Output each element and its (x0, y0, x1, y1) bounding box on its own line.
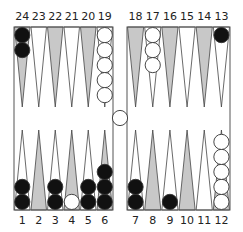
point-number-9: 9 (166, 214, 173, 227)
point-14[interactable] (196, 27, 212, 107)
point-number-16: 16 (163, 10, 177, 23)
point-number-17: 17 (146, 10, 160, 23)
point-number-19: 19 (98, 10, 112, 23)
checker-black-point-7[interactable] (128, 179, 143, 194)
checker-white-point-4[interactable] (64, 194, 79, 209)
checker-black-point-1[interactable] (15, 194, 30, 209)
point-number-5: 5 (85, 214, 92, 227)
point-number-24: 24 (15, 10, 29, 23)
checker-black-point-3[interactable] (48, 194, 63, 209)
point-number-20: 20 (81, 10, 95, 23)
bottom-point-numbers: 123456789101112 (19, 214, 229, 227)
point-number-12: 12 (214, 214, 228, 227)
checker-white-point-17[interactable] (145, 27, 160, 42)
point-number-8: 8 (149, 214, 156, 227)
checker-black-point-24[interactable] (15, 43, 30, 58)
checker-black-point-6[interactable] (97, 179, 112, 194)
checker-white-point-12[interactable] (214, 134, 229, 149)
point-number-1: 1 (19, 214, 26, 227)
checker-black-point-3[interactable] (48, 179, 63, 194)
checker-white-point-19[interactable] (97, 27, 112, 42)
checker-black-point-6[interactable] (97, 194, 112, 209)
checker-black-point-24[interactable] (15, 27, 30, 42)
point-11[interactable] (196, 130, 212, 210)
point-number-10: 10 (180, 214, 194, 227)
checker-white-point-12[interactable] (214, 149, 229, 164)
point-number-14: 14 (197, 10, 211, 23)
point-number-15: 15 (180, 10, 194, 23)
point-16[interactable] (162, 27, 178, 107)
checker-white-point-12[interactable] (214, 179, 229, 194)
point-2[interactable] (31, 130, 47, 210)
point-18[interactable] (128, 27, 144, 107)
backgammon-board: 242322212019181716151413 123456789101112 (0, 0, 243, 232)
checker-black-point-7[interactable] (128, 194, 143, 209)
point-20[interactable] (81, 27, 97, 107)
point-10[interactable] (179, 130, 195, 210)
checker-white-point-17[interactable] (145, 58, 160, 73)
checker-white-bar[interactable] (112, 110, 127, 125)
checker-white-point-19[interactable] (97, 88, 112, 103)
checker-black-point-5[interactable] (81, 179, 96, 194)
checker-black-point-9[interactable] (162, 194, 177, 209)
point-number-22: 22 (48, 10, 62, 23)
checker-white-point-19[interactable] (97, 43, 112, 58)
point-number-11: 11 (197, 214, 211, 227)
checker-black-point-13[interactable] (214, 27, 229, 42)
top-point-numbers: 242322212019181716151413 (15, 10, 228, 23)
point-number-23: 23 (32, 10, 46, 23)
point-21[interactable] (64, 27, 80, 107)
checker-black-point-1[interactable] (15, 179, 30, 194)
point-22[interactable] (48, 27, 64, 107)
point-number-7: 7 (132, 214, 139, 227)
point-number-18: 18 (129, 10, 143, 23)
point-number-13: 13 (214, 10, 228, 23)
checker-white-point-17[interactable] (145, 43, 160, 58)
right-half-frame (127, 27, 230, 210)
point-number-4: 4 (68, 214, 75, 227)
checker-black-point-6[interactable] (97, 164, 112, 179)
point-number-2: 2 (35, 214, 42, 227)
checker-white-point-12[interactable] (214, 164, 229, 179)
point-8[interactable] (145, 130, 161, 210)
point-23[interactable] (31, 27, 47, 107)
point-number-21: 21 (65, 10, 79, 23)
point-number-6: 6 (101, 214, 108, 227)
checker-white-point-19[interactable] (97, 58, 112, 73)
checker-black-point-5[interactable] (81, 194, 96, 209)
checker-white-point-19[interactable] (97, 73, 112, 88)
point-15[interactable] (179, 27, 195, 107)
point-number-3: 3 (52, 214, 59, 227)
checker-white-point-12[interactable] (214, 194, 229, 209)
